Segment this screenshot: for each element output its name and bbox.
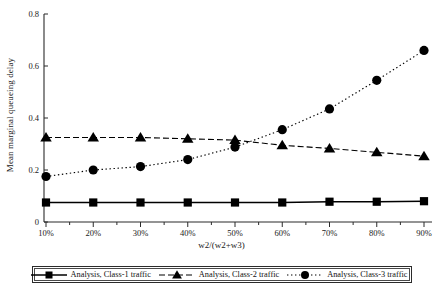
chart-figure: Mean marginal queueing delay w2/(w2+w3) … bbox=[0, 0, 443, 295]
x-tick-label: 20% bbox=[76, 228, 110, 238]
legend-label: Analysis, Class-3 traffic bbox=[327, 270, 407, 279]
data-point bbox=[278, 198, 286, 206]
y-tick-label: 0.4 bbox=[17, 113, 39, 123]
x-tick-label: 50% bbox=[218, 228, 252, 238]
series-1 bbox=[42, 197, 428, 206]
x-tick-label: 60% bbox=[265, 228, 299, 238]
data-point bbox=[182, 133, 193, 143]
x-tick-label: 80% bbox=[360, 228, 394, 238]
legend-item-2[interactable]: Analysis, Class-2 traffic bbox=[158, 270, 286, 280]
legend-marker-circle-icon bbox=[286, 270, 324, 280]
data-point bbox=[184, 198, 192, 206]
legend-label: Analysis, Class-2 traffic bbox=[199, 270, 279, 279]
data-point bbox=[88, 132, 99, 142]
axis-lines bbox=[44, 14, 432, 222]
data-point bbox=[135, 132, 146, 142]
x-tick-label: 90% bbox=[407, 228, 441, 238]
data-point bbox=[89, 198, 97, 206]
data-point bbox=[136, 198, 144, 206]
y-tick-label: 0.6 bbox=[17, 61, 39, 71]
data-point bbox=[373, 198, 381, 206]
data-point bbox=[278, 125, 287, 134]
data-point bbox=[325, 104, 334, 113]
y-axis-ticks bbox=[44, 14, 48, 222]
data-point bbox=[231, 198, 239, 206]
legend-item-3[interactable]: Analysis, Class-3 traffic bbox=[286, 270, 414, 280]
x-tick-label: 10% bbox=[29, 228, 63, 238]
legend-item-1[interactable]: Analysis, Class-1 traffic bbox=[30, 270, 158, 280]
legend-marker-square-icon bbox=[30, 270, 68, 280]
legend-label: Analysis, Class-1 traffic bbox=[71, 270, 151, 279]
plot-area bbox=[0, 0, 443, 240]
data-point bbox=[89, 165, 98, 174]
data-point bbox=[183, 155, 192, 164]
data-point bbox=[40, 132, 51, 142]
data-point bbox=[277, 140, 288, 150]
data-point bbox=[419, 46, 428, 55]
data-point bbox=[230, 143, 239, 152]
legend-marker-triangle-icon bbox=[158, 270, 196, 280]
y-tick-label: 0.8 bbox=[17, 9, 39, 19]
x-axis-ticks bbox=[46, 222, 424, 227]
data-point bbox=[372, 76, 381, 85]
x-tick-label: 70% bbox=[313, 228, 347, 238]
x-tick-label: 30% bbox=[124, 228, 158, 238]
data-point bbox=[325, 198, 333, 206]
data-point bbox=[41, 172, 50, 181]
data-point bbox=[420, 197, 428, 205]
data-point bbox=[136, 162, 145, 171]
data-point bbox=[42, 198, 50, 206]
y-tick-label: 0.2 bbox=[17, 165, 39, 175]
series-3 bbox=[41, 46, 428, 181]
x-tick-label: 40% bbox=[171, 228, 205, 238]
x-axis-title: w2/(w2+w3) bbox=[0, 240, 443, 250]
chart-legend: Analysis, Class-1 trafficAnalysis, Class… bbox=[32, 266, 412, 283]
y-tick-label: 0 bbox=[17, 217, 39, 227]
